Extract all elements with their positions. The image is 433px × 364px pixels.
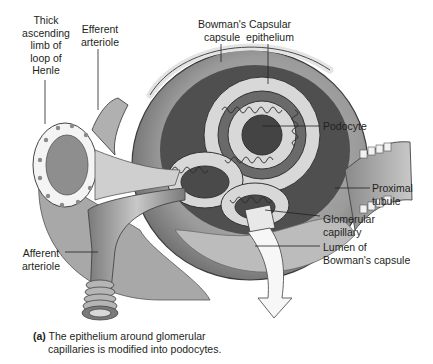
caption-line-1: The epithelium around glomerular [49, 330, 206, 342]
caption-tag: (a) [33, 330, 46, 342]
efferent-arteriole-shape [92, 98, 128, 155]
label-afferent-arteriole: Afferent arteriole [18, 247, 64, 272]
thick-ascending-limb-shape [33, 123, 97, 207]
label-capsular-epithelium: Capsular epithelium [238, 18, 302, 43]
label-glomerular-capillary: Glomerular capillary [323, 213, 375, 238]
figure-caption: (a) The epithelium around glomerular cap… [33, 330, 221, 355]
caption-line-2: capillaries is modified into podocytes. [33, 343, 221, 356]
label-podocyte: Podocyte [323, 120, 367, 133]
label-thick-ascending-limb: Thick ascending limb of loop of Henle [16, 14, 76, 77]
label-proximal-tubule: Proximal tubule [372, 182, 413, 207]
label-efferent-arteriole: Efferent arteriole [78, 23, 122, 48]
label-lumen-bowmans-capsule: Lumen of Bowman's capsule [323, 241, 410, 266]
